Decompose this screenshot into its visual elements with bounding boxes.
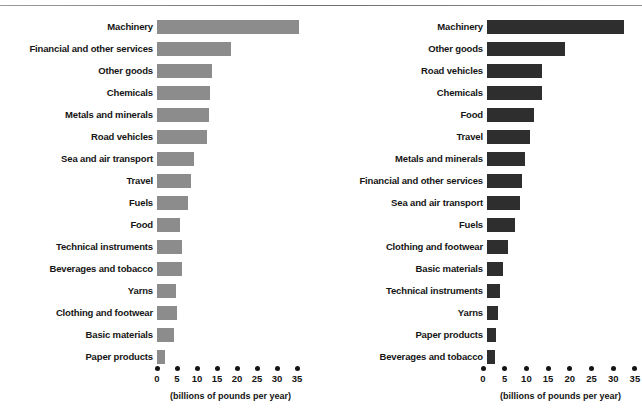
- bar-track: [157, 126, 330, 148]
- bar-category-label: Food: [330, 110, 487, 120]
- bar: [487, 64, 542, 78]
- bar: [157, 196, 188, 210]
- bar-row: Travel: [330, 126, 642, 148]
- bar: [157, 64, 212, 78]
- bar-row: Sea and air transport: [0, 148, 330, 170]
- x-axis-tick: 5: [496, 366, 514, 384]
- x-axis-tick-dot: [502, 366, 507, 371]
- bar-row: Financial and other services: [330, 170, 642, 192]
- bar-track: [157, 214, 330, 236]
- bar: [487, 174, 522, 188]
- bar-row: Food: [0, 214, 330, 236]
- bar-row: Paper products: [0, 346, 330, 368]
- bar-track: [157, 170, 330, 192]
- bar: [157, 152, 194, 166]
- bar-row: Beverages and tobacco: [0, 258, 330, 280]
- x-axis-tick: 10: [517, 366, 535, 384]
- x-axis-tick-dot: [215, 366, 220, 371]
- bar-category-label: Beverages and tobacco: [0, 264, 157, 274]
- bar-track: [157, 192, 330, 214]
- bar-row: Food: [330, 104, 642, 126]
- x-axis-tick: 0: [148, 366, 166, 384]
- bar-row: Metals and minerals: [330, 148, 642, 170]
- bar: [487, 86, 542, 100]
- x-axis-tick-label: 30: [268, 374, 286, 384]
- bar-category-label: Yarns: [0, 286, 157, 296]
- bar-category-label: Paper products: [330, 330, 487, 340]
- bar-row: Sea and air transport: [330, 192, 642, 214]
- x-axis-tick: 30: [268, 366, 286, 384]
- bar-row: Financial and other services: [0, 38, 330, 60]
- x-axis-tick: 35: [288, 366, 306, 384]
- bar-track: [157, 104, 330, 126]
- right-chart-axis-caption: (billions of pounds per year): [500, 392, 621, 401]
- bar: [487, 196, 520, 210]
- x-axis-tick: 20: [228, 366, 246, 384]
- x-axis-tick: 35: [626, 366, 642, 384]
- bar-row: Other goods: [0, 60, 330, 82]
- bar-track: [487, 302, 642, 324]
- bar: [487, 306, 498, 320]
- bar-category-label: Financial and other services: [330, 176, 487, 186]
- x-axis-tick: 10: [188, 366, 206, 384]
- bar-category-label: Technical instruments: [0, 242, 157, 252]
- x-axis-tick-dot: [589, 366, 594, 371]
- bar-track: [487, 236, 642, 258]
- x-axis-tick-dot: [611, 366, 616, 371]
- x-axis-tick-dot: [567, 366, 572, 371]
- bar-row: Technical instruments: [0, 236, 330, 258]
- bar-track: [487, 346, 642, 368]
- bar: [157, 130, 207, 144]
- x-axis-tick: 30: [604, 366, 622, 384]
- bar: [157, 350, 165, 364]
- bar-row: Yarns: [0, 280, 330, 302]
- bar-category-label: Chemicals: [0, 88, 157, 98]
- bar-track: [487, 324, 642, 346]
- bar: [487, 328, 496, 342]
- bar-category-label: Chemicals: [330, 88, 487, 98]
- bar-category-label: Clothing and footwear: [0, 308, 157, 318]
- bar: [157, 306, 177, 320]
- x-axis-tick-dot: [175, 366, 180, 371]
- bar-track: [157, 258, 330, 280]
- x-axis-tick-dot: [632, 366, 637, 371]
- x-axis-tick-label: 20: [228, 374, 246, 384]
- x-axis-tick-label: 25: [248, 374, 266, 384]
- bar: [157, 218, 180, 232]
- bar: [487, 20, 624, 34]
- bar-row: Fuels: [330, 214, 642, 236]
- x-axis-tick-dot: [524, 366, 529, 371]
- bar-row: Clothing and footwear: [330, 236, 642, 258]
- bar-category-label: Fuels: [330, 220, 487, 230]
- bar: [487, 284, 500, 298]
- bar: [157, 240, 182, 254]
- bar-track: [487, 170, 642, 192]
- x-axis-tick: 20: [561, 366, 579, 384]
- x-axis-tick-label: 10: [517, 374, 535, 384]
- x-axis-tick-label: 35: [288, 374, 306, 384]
- bar-row: Chemicals: [330, 82, 642, 104]
- bar: [157, 20, 299, 34]
- bar: [157, 86, 210, 100]
- bar: [487, 262, 503, 276]
- bar: [487, 152, 525, 166]
- x-axis-tick: 15: [208, 366, 226, 384]
- bar-track: [157, 38, 330, 60]
- x-axis-tick-dot: [235, 366, 240, 371]
- bar-row: Machinery: [330, 16, 642, 38]
- right-chart-bar-rows: MachineryOther goodsRoad vehiclesChemica…: [330, 16, 642, 368]
- x-axis-tick-label: 10: [188, 374, 206, 384]
- bar: [157, 262, 182, 276]
- bar: [487, 42, 565, 56]
- bar-category-label: Beverages and tobacco: [330, 352, 487, 362]
- bar: [487, 218, 515, 232]
- bar-track: [487, 126, 642, 148]
- bar-category-label: Travel: [0, 176, 157, 186]
- bar: [157, 284, 176, 298]
- bar-track: [157, 60, 330, 82]
- bar-track: [487, 16, 642, 38]
- bar-track: [157, 82, 330, 104]
- bar: [487, 108, 534, 122]
- bar-row: Clothing and footwear: [0, 302, 330, 324]
- bar-track: [157, 148, 330, 170]
